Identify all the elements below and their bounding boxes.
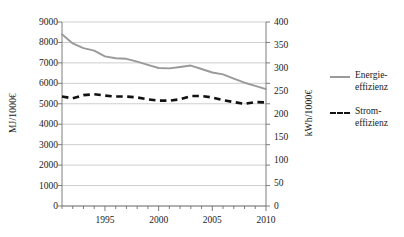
series-line-2 [62, 94, 266, 104]
data-series [62, 34, 266, 104]
chart-figure: MJ/1000€ kWh/1000€ 010002000300040005000… [0, 0, 404, 237]
legend-item-label: Strom- effizienz [355, 106, 388, 129]
legend-item-label: Energie- effizienz [355, 70, 388, 93]
chart-legend: Energie- effizienzStrom- effizienz [330, 70, 404, 142]
legend-item[interactable]: Energie- effizienz [330, 70, 404, 93]
dashed-line-icon [330, 107, 350, 119]
legend-item[interactable]: Strom- effizienz [330, 106, 404, 129]
solid-line-icon [330, 71, 350, 83]
